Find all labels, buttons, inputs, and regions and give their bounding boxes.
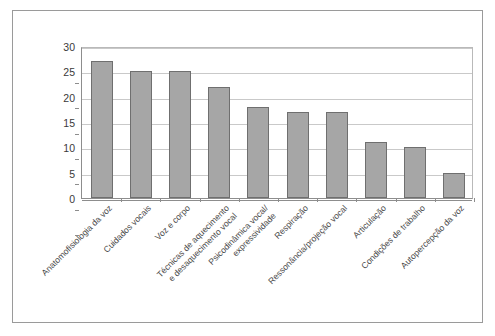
bar[interactable] <box>404 147 426 198</box>
y-axis-tick-label: 0 <box>51 194 75 205</box>
bar[interactable] <box>247 107 269 198</box>
bar[interactable] <box>326 112 348 198</box>
x-axis-category-label: Ressonância/projeção vocal <box>266 203 349 286</box>
bar[interactable] <box>169 71 191 198</box>
x-axis-tick-mark <box>474 198 475 202</box>
bar-series <box>82 48 472 198</box>
x-axis-tick-mark <box>200 198 201 202</box>
x-axis-category-label: Respiração <box>272 203 310 241</box>
y-axis-tick-mark <box>75 210 79 211</box>
x-axis-category-label-line: Articulação <box>351 203 388 240</box>
x-axis-category-label-line: Voz e corpo <box>153 203 192 242</box>
x-axis-category-label: Voz e corpo <box>153 203 193 243</box>
y-axis-tick-label: 25 <box>51 67 75 78</box>
y-axis-tick-label: 5 <box>51 168 75 179</box>
x-axis-tick-mark <box>317 198 318 202</box>
y-axis-tick-label: 20 <box>51 92 75 103</box>
x-axis-tick-mark <box>396 198 397 202</box>
bar[interactable] <box>208 87 230 198</box>
y-axis-tick-labels: 051015202530 <box>49 47 75 199</box>
y-axis-tick-label: 10 <box>51 143 75 154</box>
y-axis-tick-label: 15 <box>51 118 75 129</box>
bar[interactable] <box>130 71 152 198</box>
y-axis-tick-mark <box>75 108 79 109</box>
x-axis-category-label: Articulação <box>351 203 388 240</box>
plot-area <box>81 47 473 199</box>
x-axis-tick-mark <box>435 198 436 202</box>
bar[interactable] <box>91 61 113 198</box>
x-axis-category-labels: Anatomofisiologia da vozCuidados vocaisV… <box>81 203 473 329</box>
x-axis-category-label-line: Ressonância/projeção vocal <box>266 203 349 286</box>
x-axis-tick-mark <box>239 198 240 202</box>
y-axis-tick-mark <box>75 159 79 160</box>
x-axis-tick-mark <box>160 198 161 202</box>
bar[interactable] <box>443 173 465 198</box>
y-axis-tick-mark <box>75 83 79 84</box>
bar[interactable] <box>287 112 309 198</box>
gridline <box>82 200 472 201</box>
y-axis-tick-mark <box>75 134 79 135</box>
x-axis-category-label-line: Anatomofisiologia da voz <box>39 203 114 278</box>
bar[interactable] <box>365 142 387 198</box>
x-axis-category-label-line: Respiração <box>272 203 310 241</box>
y-axis-tick-label: 30 <box>51 42 75 53</box>
x-axis-category-label: Anatomofisiologia da voz <box>39 203 114 278</box>
chart-frame: 051015202530 Anatomofisiologia da vozCui… <box>12 10 483 323</box>
x-axis-tick-mark <box>121 198 122 202</box>
x-axis-tick-mark <box>356 198 357 202</box>
x-axis-tick-mark <box>278 198 279 202</box>
y-axis-tick-mark <box>75 184 79 185</box>
